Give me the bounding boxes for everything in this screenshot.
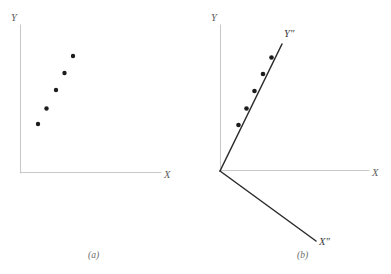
- figure-container: Y X (a) Y X Y″ X″ (b): [0, 0, 391, 274]
- figure-canvas: Y X (a) Y X Y″ X″ (b): [0, 0, 391, 274]
- panel-b-y-axis-label: Y: [211, 12, 218, 23]
- panel-a-caption: (a): [88, 250, 99, 261]
- panel-b-x-axis-label: X: [371, 167, 379, 178]
- data-point: [62, 71, 66, 75]
- data-point: [71, 54, 75, 58]
- panel-a-x-axis-label: X: [163, 169, 171, 180]
- panel-b-rotated-x-axis: [220, 171, 316, 241]
- data-point: [261, 72, 266, 77]
- data-point: [244, 106, 249, 111]
- panel-a: Y X (a): [11, 12, 171, 261]
- data-point: [36, 122, 40, 126]
- data-point: [269, 55, 274, 60]
- panel-b-point-group: [236, 55, 274, 127]
- panel-b-rotated-y-axis: [220, 44, 282, 171]
- panel-a-y-axis-label: Y: [11, 12, 18, 23]
- panel-b-rotated-x-axis-label: X″: [318, 236, 331, 247]
- data-point: [252, 89, 257, 94]
- panel-b: Y X Y″ X″ (b): [211, 12, 379, 261]
- data-point: [54, 88, 58, 92]
- panel-a-point-group: [36, 54, 75, 126]
- panel-b-rotated-y-axis-label: Y″: [284, 28, 295, 39]
- panel-b-caption: (b): [297, 250, 308, 261]
- data-point: [236, 123, 241, 128]
- data-point: [44, 106, 48, 110]
